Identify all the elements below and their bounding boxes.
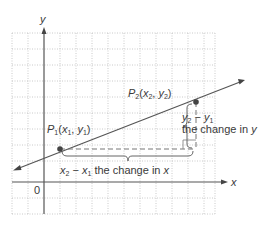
point-p1 (57, 146, 63, 152)
run-minus: − (69, 164, 82, 176)
p1-y-sub: 1 (83, 129, 87, 136)
p2-y-sub: 2 (164, 93, 168, 100)
line-arrow-right-icon (238, 79, 245, 85)
point-p2 (193, 99, 199, 105)
run-text: the change in (91, 164, 163, 176)
x-axis-arrow-icon (221, 180, 228, 185)
p1-label: P1(x1, y1) (47, 124, 91, 136)
y-axis-arrow-icon (42, 27, 47, 34)
p1-x-sub: 1 (67, 129, 71, 136)
rise-minus: − (191, 111, 204, 123)
origin-label: 0 (34, 185, 40, 196)
run-label: x2 − x1 the change in x (60, 165, 169, 177)
rise-label-text: the change in y (182, 124, 257, 135)
rise-var: y (251, 123, 257, 135)
run-var: x (164, 164, 170, 176)
line-arrow-left-icon (13, 165, 22, 171)
run-brace (62, 151, 193, 161)
p2-label: P2(x2, y2) (128, 88, 172, 100)
p1-sub: 1 (54, 129, 58, 136)
rise-text: the change in (182, 123, 251, 135)
p2-x-sub: 2 (148, 93, 152, 100)
x-axis-label: x (231, 177, 237, 188)
p2-sub: 2 (135, 93, 139, 100)
y-axis-label: y (40, 14, 46, 25)
y-axis (42, 27, 47, 214)
